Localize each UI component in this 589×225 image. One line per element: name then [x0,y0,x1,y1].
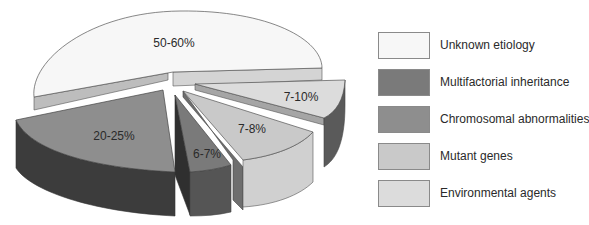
legend-item-environmental-agents: Environmental agents [378,179,578,207]
pie-chart: 50-60% 7-10% 7-8% 6-7% 20-25% [0,0,360,225]
legend-item-chromosomal-abnormalities: Chromosomal abnormalities [378,105,578,133]
slice-label-chromosomal: 20-25% [93,129,135,143]
legend-item-multifactorial-inheritance: Multifactorial inheritance [378,68,578,96]
legend-swatch [378,69,430,96]
legend-label: Mutant genes [440,149,513,163]
legend-swatch [378,106,430,133]
slice-label-multifactorial: 6-7% [193,147,221,161]
legend-label: Unknown etiology [440,38,535,52]
legend-swatch [378,32,430,59]
legend-label: Multifactorial inheritance [440,75,569,89]
legend-item-mutant-genes: Mutant genes [378,142,578,170]
legend-swatch [378,143,430,170]
chart-legend: Unknown etiology Multifactorial inherita… [378,31,578,216]
slice-label-mutant: 7-8% [238,122,266,136]
slice-label-unknown: 50-60% [153,36,195,50]
legend-label: Chromosomal abnormalities [440,112,589,126]
legend-item-unknown-etiology: Unknown etiology [378,31,578,59]
legend-swatch [378,180,430,207]
slice-label-environmental: 7-10% [284,90,319,104]
legend-label: Environmental agents [440,186,556,200]
